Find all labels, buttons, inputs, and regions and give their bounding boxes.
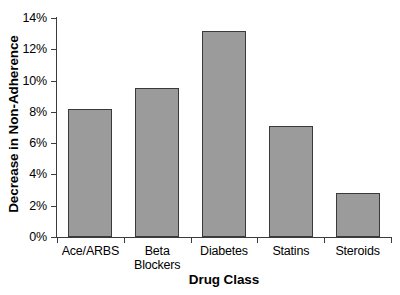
x-axis-category-label: Steroids bbox=[324, 244, 391, 258]
x-axis-tick bbox=[124, 238, 125, 243]
y-axis-tick bbox=[51, 206, 56, 207]
y-axis-tick-label: 12% bbox=[1, 43, 47, 56]
x-axis-category-label: Diabetes bbox=[191, 244, 258, 258]
x-axis-label-line: Beta bbox=[124, 244, 191, 258]
y-axis-tick bbox=[51, 237, 56, 238]
bars-group bbox=[57, 18, 391, 237]
bar-diabetes[interactable] bbox=[202, 31, 246, 237]
bar-beta-blockers[interactable] bbox=[135, 88, 179, 237]
x-axis-title: Drug Class bbox=[57, 272, 391, 287]
x-axis-label-line: Ace/ARBS bbox=[57, 244, 124, 258]
bar-statins[interactable] bbox=[269, 126, 313, 237]
x-axis-label-line: Statins bbox=[257, 244, 324, 258]
x-axis-category-label: Statins bbox=[257, 244, 324, 258]
x-axis-label-line: Blockers bbox=[124, 258, 191, 272]
x-axis-label-line: Diabetes bbox=[191, 244, 258, 258]
x-axis-tick bbox=[324, 238, 325, 243]
y-axis-tick-label: 0% bbox=[1, 231, 47, 244]
y-axis-tick bbox=[51, 49, 56, 50]
bar-slot bbox=[57, 18, 124, 237]
bar-slot bbox=[124, 18, 191, 237]
bar-slot bbox=[324, 18, 391, 237]
x-axis-category-label: BetaBlockers bbox=[124, 244, 191, 272]
y-axis-tick-label: 2% bbox=[1, 200, 47, 213]
bar-ace-arbs[interactable] bbox=[68, 109, 112, 237]
x-axis-category-label: Ace/ARBS bbox=[57, 244, 124, 258]
y-axis-tick bbox=[51, 81, 56, 82]
x-axis-tick bbox=[257, 238, 258, 243]
bar-slot bbox=[191, 18, 258, 237]
y-axis-tick bbox=[51, 143, 56, 144]
y-axis-tick-label: 8% bbox=[1, 106, 47, 119]
bar-steroids[interactable] bbox=[336, 193, 380, 237]
bar-chart: Decrease in Non-Adherence 0%2%4%6%8%10%1… bbox=[0, 0, 400, 295]
y-axis-tick bbox=[51, 112, 56, 113]
y-axis-tick-label: 14% bbox=[1, 12, 47, 25]
x-axis-tick bbox=[57, 238, 58, 243]
y-axis-tick-label: 4% bbox=[1, 168, 47, 181]
x-axis-label-line: Steroids bbox=[324, 244, 391, 258]
y-axis-tick-label: 6% bbox=[1, 137, 47, 150]
x-axis-tick bbox=[191, 238, 192, 243]
x-axis-tick bbox=[391, 238, 392, 243]
bar-slot bbox=[257, 18, 324, 237]
y-axis-tick bbox=[51, 18, 56, 19]
x-axis-line bbox=[56, 237, 392, 238]
y-axis-tick bbox=[51, 174, 56, 175]
y-axis-tick-label: 10% bbox=[1, 75, 47, 88]
